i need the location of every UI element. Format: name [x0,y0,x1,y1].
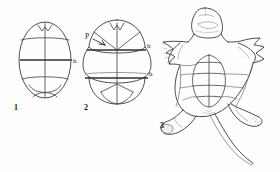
figure-3-group: 3 [160,8,264,165]
figure-number-2: 2 [84,103,88,112]
figure-number-3: 3 [160,121,164,130]
neck-left [188,34,194,42]
pectoral-label-fig2: P [85,32,89,41]
left-shoulder-crease [180,64,197,66]
right-bridge-seam-b [225,86,244,88]
head-outline [192,8,223,38]
tail-upper-edge [215,114,253,163]
vent-small [206,110,212,112]
left-forelimb-crease [178,45,183,59]
snout-midline [205,9,206,16]
right-hindlimb-outline [228,104,262,126]
left-bridge-seam-b [180,86,193,88]
body-outline [163,38,264,117]
anal-seam-left-fig2 [101,92,117,104]
hinge-label-fig1: h [73,57,77,65]
right-hind-claws [252,117,260,123]
femoral-seam-left-fig2 [101,84,117,92]
figure-2-group: P h h 2 [83,20,153,112]
vent-crease [203,112,215,114]
figure-1-group: h 1 [14,22,77,112]
head-crease-upper [199,15,214,17]
right-forelimb-crease [238,47,249,58]
figure-number-1: 1 [14,103,18,112]
left-hindlimb-outline [161,110,196,134]
left-hind-claws [164,126,171,131]
mouth-line [198,22,218,29]
neck-right [221,34,228,42]
right-forelimb-edge [238,43,255,63]
anal-seam-right-fig2 [117,92,133,104]
hinge-label-fig2-upper: h [147,42,151,50]
illustration-canvas: h 1 [0,0,280,172]
right-bridge-seam-a [224,74,248,75]
figure-plate: h 1 [0,0,280,172]
hinge-label-fig2-lower: h [149,70,153,78]
pectoral-seam-right-fig2 [117,32,140,50]
left-hindlimb-crease [174,118,182,127]
chin-crease [196,31,219,33]
left-bridge-seam-a [180,74,194,75]
left-bridge-seam-c [183,97,197,100]
femoral-seam-right-fig2 [117,84,133,92]
